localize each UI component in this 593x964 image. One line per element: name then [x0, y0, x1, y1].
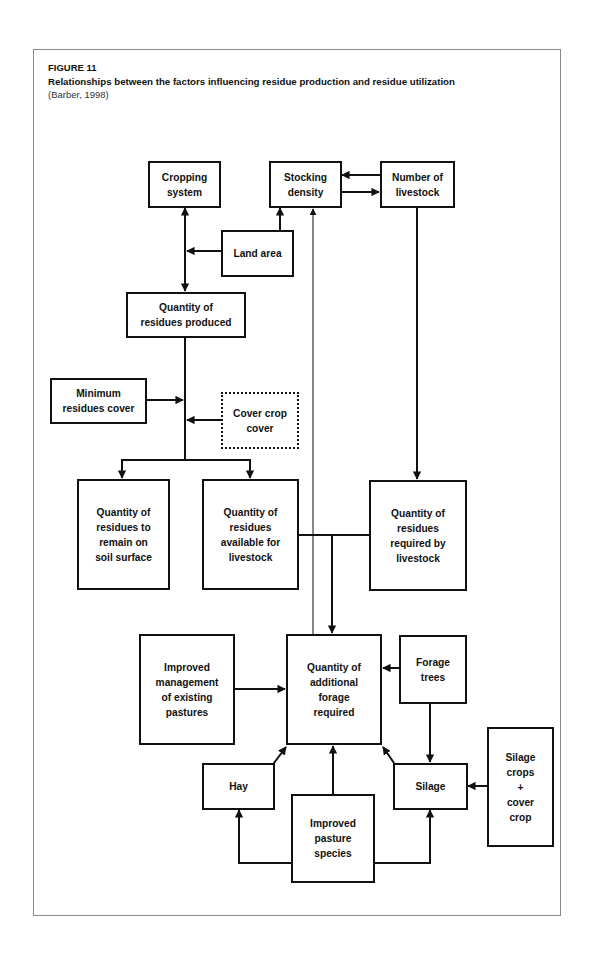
node-forage-trees: Forage trees — [399, 635, 467, 704]
arrow-pasture-silage — [374, 810, 430, 863]
node-cropping-system: Cropping system — [148, 161, 221, 208]
node-improved-pasture-species: Improved pasture species — [291, 794, 375, 883]
arrow-pasture-hay — [239, 810, 291, 863]
node-improved-management: Improved management of existing pastures — [139, 634, 235, 745]
node-additional-forage: Quantity of additional forage required — [286, 634, 382, 745]
node-hay: Hay — [202, 763, 275, 810]
node-number-of-livestock: Number of livestock — [380, 161, 455, 208]
node-minimum-residues-cover: Minimum residues cover — [50, 378, 147, 424]
arrow-hay-forage — [274, 747, 286, 790]
node-residues-remain: Quantity of residues to remain on soil s… — [77, 479, 170, 590]
node-silage-crops: Silage crops + cover crop — [487, 727, 554, 847]
node-land-area: Land area — [221, 230, 294, 277]
node-cover-crop-cover: Cover crop cover — [221, 392, 299, 449]
node-silage: Silage — [393, 763, 468, 810]
line-branch — [122, 460, 250, 478]
node-residues-produced: Quantity of residues produced — [126, 292, 246, 338]
node-residues-available: Quantity of residues available for lives… — [202, 479, 299, 590]
node-stocking-density: Stocking density — [269, 161, 342, 208]
arrow-silage-forage — [383, 747, 394, 763]
node-residues-required: Quantity of residues required by livesto… — [369, 480, 467, 591]
